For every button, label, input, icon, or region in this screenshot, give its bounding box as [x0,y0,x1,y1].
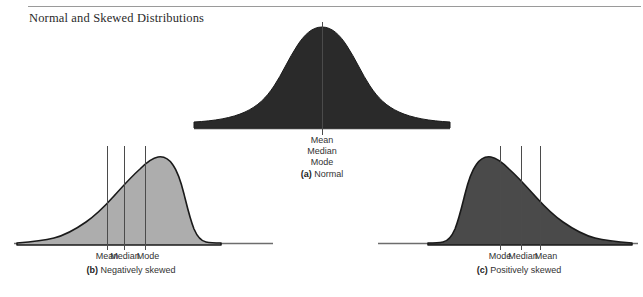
panel-a-label-median: Median [307,146,337,157]
positively-skewed-curve-area [428,157,632,245]
panel-a-caption-label: (a) [301,169,312,179]
panel-a-label-mean: Mean [311,135,334,146]
panel-c-positively-skewed [378,146,638,250]
panel-a-label-mode: Mode [311,157,334,168]
panel-a-caption: (a) Normal [301,169,344,180]
panel-c-caption-text: Positively skewed [490,265,561,275]
figure-container: e Normal and Skewed Distributions [0,0,643,297]
negatively-skewed-curve-area [17,157,221,245]
panel-b-caption-text: Negatively skewed [100,265,175,275]
panel-c-caption-label: (c) [477,265,488,275]
panel-b-label-mode: Mode [137,251,160,262]
panel-b-caption: (b) Negatively skewed [86,265,175,276]
panel-a-normal [194,22,450,135]
panel-c-label-mean: Mean [535,251,558,262]
panel-c-caption: (c) Positively skewed [477,265,562,276]
panel-b-negatively-skewed [14,146,273,250]
panel-b-caption-label: (b) [86,265,98,275]
panel-b-label-median: Median [110,251,140,262]
panel-c-label-median: Median [508,251,538,262]
panel-a-caption-text: Normal [314,169,343,179]
